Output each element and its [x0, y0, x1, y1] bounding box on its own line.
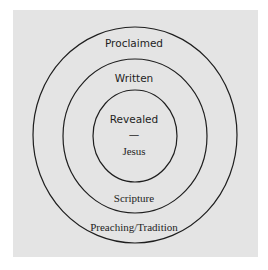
label-revealed: Revealed	[0, 113, 268, 125]
label-preaching-tradition: Preaching/Tradition	[0, 221, 268, 233]
separator-dash: —	[0, 128, 268, 140]
label-jesus: Jesus	[0, 145, 268, 157]
label-proclaimed: Proclaimed	[0, 37, 268, 49]
label-written: Written	[0, 72, 268, 84]
label-scripture: Scripture	[0, 192, 268, 204]
